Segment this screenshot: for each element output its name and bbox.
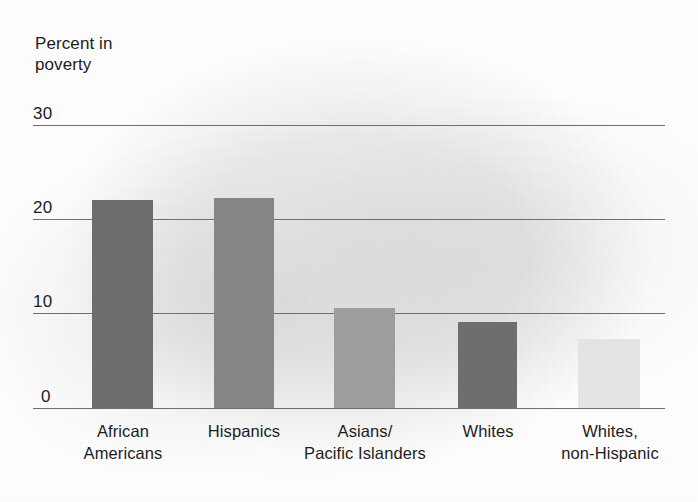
x-tick-label-whites: Whites xyxy=(428,420,548,442)
x-tick-label-african-americans: AfricanAmericans xyxy=(62,420,184,464)
bar-asians-pacific-islanders xyxy=(334,308,395,408)
bar-whites xyxy=(458,322,517,408)
y-tick-label-30: 30 xyxy=(33,104,52,124)
x-tick-label-asians-pacific-islanders: Asians/Pacific Islanders xyxy=(290,420,440,464)
x-tick-label-hispanics: Hispanics xyxy=(185,420,303,442)
axis-baseline-0 xyxy=(33,408,665,409)
x-tick-line-1-4: Whites, xyxy=(582,422,638,440)
x-tick-label-whites-non-hispanic: Whites,non-Hispanic xyxy=(537,420,683,464)
chart-page: Percent inpoverty 30 20 10 0 AfricanAmer… xyxy=(0,0,698,502)
x-tick-line-1-1: Hispanics xyxy=(208,422,280,440)
y-axis-title: Percent inpoverty xyxy=(35,33,113,75)
y-tick-label-20: 20 xyxy=(33,198,52,218)
x-tick-line-2-4: non-Hispanic xyxy=(561,444,659,462)
bar-chart: Percent inpoverty 30 20 10 0 AfricanAmer… xyxy=(0,0,698,502)
y-axis-title-line-2: poverty xyxy=(35,55,91,74)
gridline-30 xyxy=(33,125,665,126)
x-tick-line-2-2: Pacific Islanders xyxy=(304,444,426,462)
bar-african-americans xyxy=(92,200,153,408)
x-tick-line-2-0: Americans xyxy=(84,444,163,462)
y-tick-label-10: 10 xyxy=(33,292,52,312)
bar-hispanics xyxy=(214,198,274,408)
x-tick-line-1-0: African xyxy=(97,422,149,440)
bar-whites-non-hispanic xyxy=(578,339,640,408)
x-tick-line-1-2: Asians/ xyxy=(338,422,393,440)
x-tick-line-1-3: Whites xyxy=(462,422,513,440)
y-axis-title-line-1: Percent in xyxy=(35,34,113,53)
y-tick-label-0: 0 xyxy=(41,387,51,407)
